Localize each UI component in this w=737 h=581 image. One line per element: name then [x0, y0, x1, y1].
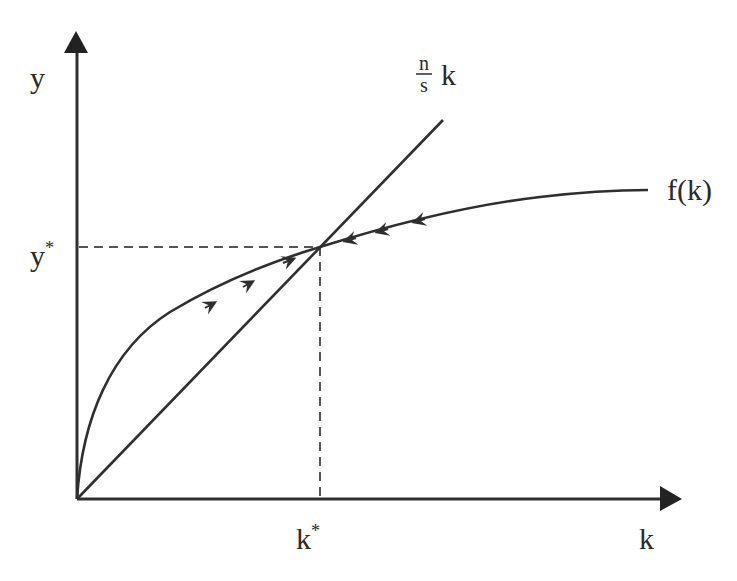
convergence-arrows-right — [346, 219, 425, 241]
y-star-label: y* — [30, 238, 54, 272]
x-axis-label: k — [639, 522, 654, 555]
y-axis-arrowhead-icon — [64, 31, 88, 53]
fraction-numerator: n — [419, 52, 429, 74]
production-function-label: f(k) — [667, 173, 712, 207]
break-even-line-label: n s k — [416, 52, 456, 96]
fraction-denominator: s — [420, 74, 428, 96]
convergence-arrows-left — [205, 259, 293, 308]
x-axis-arrowhead-icon — [660, 486, 682, 511]
k-star-label: k* — [296, 521, 320, 555]
y-axis-label: y — [30, 61, 45, 94]
break-even-line — [77, 120, 443, 499]
production-function-curve — [77, 190, 648, 499]
axes — [64, 31, 682, 511]
solow-diagram: y k y* k* f(k) n s k — [0, 0, 737, 581]
flow-arrow-icon — [243, 282, 252, 287]
flow-arrow-icon — [205, 303, 214, 308]
line-variable: k — [441, 58, 456, 91]
